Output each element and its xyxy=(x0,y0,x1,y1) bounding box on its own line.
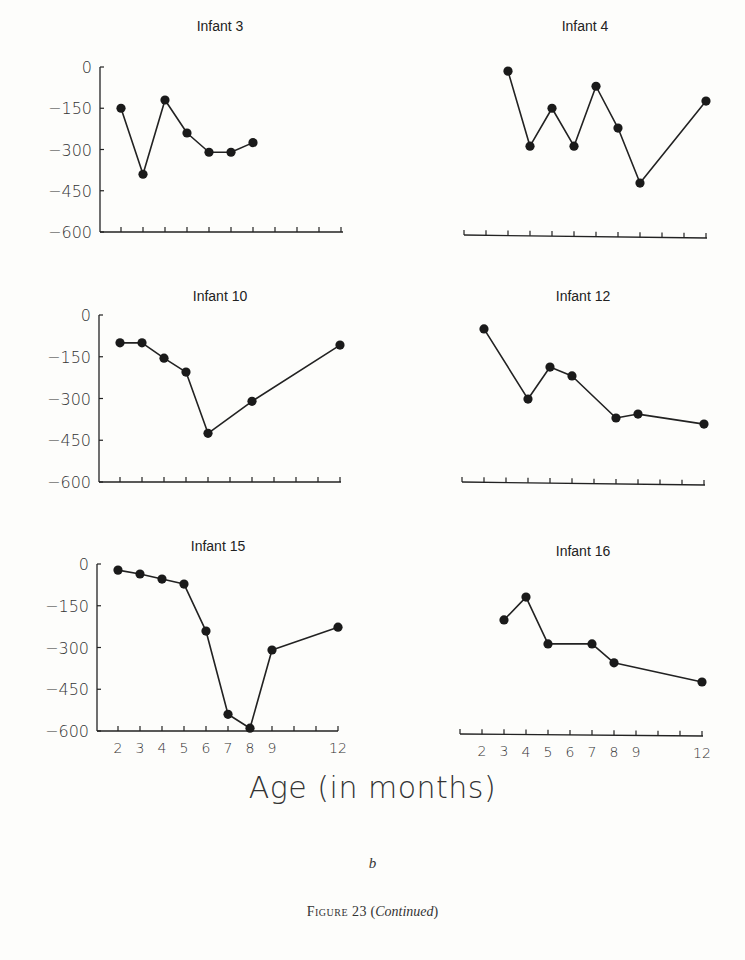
x-tick-label: 2 xyxy=(478,743,487,759)
x-tick-label: 8 xyxy=(610,744,619,760)
data-point-marker xyxy=(523,394,532,403)
data-point-marker xyxy=(157,574,166,583)
y-tick-label: −600 xyxy=(45,722,89,741)
data-point-marker xyxy=(223,710,232,719)
data-point-marker xyxy=(201,626,210,635)
x-tick-label: 9 xyxy=(632,744,641,760)
infant-12-chart: Infant 12 xyxy=(462,288,709,485)
series-line xyxy=(508,71,706,183)
data-point-marker xyxy=(267,645,276,654)
data-point-marker xyxy=(248,138,257,147)
infant-3-chart: Infant 30−150−300−450−600 xyxy=(48,18,343,242)
x-tick-label: 3 xyxy=(500,743,509,759)
y-tick-label: −300 xyxy=(47,390,91,409)
y-tick-label: −300 xyxy=(48,141,92,160)
data-point-marker xyxy=(547,104,556,113)
x-axis xyxy=(462,482,705,485)
chart-title: Infant 15 xyxy=(191,538,246,554)
series-line xyxy=(120,343,340,433)
data-point-marker xyxy=(135,569,144,578)
caption-figure-number: Figure 23 xyxy=(307,904,367,919)
y-tick-label: 0 xyxy=(81,306,91,325)
series-line xyxy=(504,597,702,682)
x-tick-label: 5 xyxy=(544,744,553,760)
infant-4-chart: Infant 4 xyxy=(464,18,711,238)
series-line xyxy=(118,570,338,728)
data-point-marker xyxy=(335,340,344,349)
x-tick-label: 2 xyxy=(114,740,123,756)
data-point-marker xyxy=(115,338,124,347)
data-point-marker xyxy=(521,593,530,602)
data-point-marker xyxy=(160,95,169,104)
data-point-marker xyxy=(591,82,600,91)
data-point-marker xyxy=(159,354,168,363)
x-tick-label: 5 xyxy=(180,740,189,756)
data-point-marker xyxy=(697,677,706,686)
chart-title: Infant 12 xyxy=(556,288,611,304)
caption-paren-close: ) xyxy=(434,904,439,919)
data-point-marker xyxy=(138,170,147,179)
y-tick-label: −150 xyxy=(45,597,89,616)
data-point-marker xyxy=(699,420,708,429)
data-point-marker xyxy=(545,362,554,371)
y-tick-label: 0 xyxy=(79,555,89,574)
x-tick-label: 6 xyxy=(202,740,211,756)
data-point-marker xyxy=(611,413,620,422)
x-tick-label: 4 xyxy=(522,744,531,760)
data-point-marker xyxy=(116,104,125,113)
data-point-marker xyxy=(247,397,256,406)
y-tick-label: −300 xyxy=(45,639,89,658)
panel-letter: b xyxy=(0,855,745,872)
figure-23b-line-charts: Infant 30−150−300−450−600Infant 4Infant … xyxy=(0,0,745,960)
y-tick-label: −600 xyxy=(48,223,92,242)
data-point-marker xyxy=(613,123,622,132)
y-tick-label: −450 xyxy=(47,431,91,450)
data-point-marker xyxy=(609,658,618,667)
x-tick-label: 12 xyxy=(693,745,711,761)
data-point-marker xyxy=(525,142,534,151)
data-point-marker xyxy=(503,67,512,76)
caption-continued: Continued xyxy=(375,904,433,919)
x-tick-label: 7 xyxy=(224,740,233,756)
data-point-marker xyxy=(226,148,235,157)
chart-title: Infant 16 xyxy=(556,543,611,559)
series-line xyxy=(484,329,704,424)
y-tick-label: −150 xyxy=(47,348,91,367)
data-point-marker xyxy=(479,324,488,333)
x-tick-label: 4 xyxy=(158,740,167,756)
data-point-marker xyxy=(633,409,642,418)
chart-title: Infant 3 xyxy=(197,18,244,34)
data-point-marker xyxy=(182,128,191,137)
infant-15-chart: Infant 150−150−300−450−6002345678912 xyxy=(45,538,347,756)
chart-title: Infant 10 xyxy=(193,288,248,304)
data-point-marker xyxy=(137,338,146,347)
chart-title: Infant 4 xyxy=(562,18,609,34)
y-tick-label: −450 xyxy=(48,182,92,201)
data-point-marker xyxy=(333,623,342,632)
x-tick-label: 12 xyxy=(329,740,347,756)
data-point-marker xyxy=(499,615,508,624)
data-point-marker xyxy=(245,724,254,733)
y-tick-label: −600 xyxy=(47,473,91,492)
data-point-marker xyxy=(569,142,578,151)
data-point-marker xyxy=(543,639,552,648)
x-tick-label: 7 xyxy=(588,744,597,760)
data-point-marker xyxy=(701,97,710,106)
data-point-marker xyxy=(113,566,122,575)
x-tick-label: 8 xyxy=(246,740,255,756)
x-tick-label: 6 xyxy=(566,744,575,760)
figure-caption: Figure 23 (Continued) xyxy=(0,904,745,920)
infant-10-chart: Infant 100−150−300−450−600 xyxy=(47,288,345,492)
infant-16-chart: Infant 162345678912 xyxy=(460,543,711,761)
y-tick-label: 0 xyxy=(82,58,92,77)
y-tick-label: −450 xyxy=(45,680,89,699)
x-axis-label: Age (in months) xyxy=(0,770,745,805)
data-point-marker xyxy=(204,148,213,157)
data-point-marker xyxy=(567,371,576,380)
x-axis xyxy=(464,235,707,238)
data-point-marker xyxy=(203,429,212,438)
data-point-marker xyxy=(181,367,190,376)
x-axis xyxy=(460,734,703,736)
x-tick-label: 9 xyxy=(268,740,277,756)
data-point-marker xyxy=(635,178,644,187)
